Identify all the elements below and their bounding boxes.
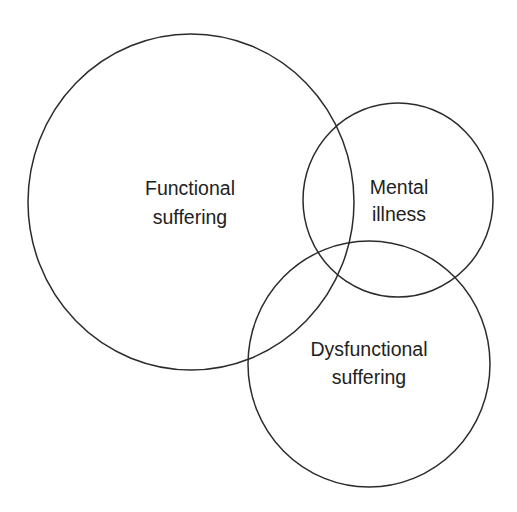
functional-suffering-label-line-2: suffering — [145, 203, 235, 232]
dysfunctional-suffering-label-line-2: suffering — [310, 363, 427, 391]
dysfunctional-suffering-label-line-1: Dysfunctional — [310, 335, 427, 363]
mental-illness-label-line-1: Mental — [370, 174, 429, 201]
venn-diagram: Functional suffering Mental illness Dysf… — [0, 0, 517, 512]
functional-suffering-label: Functional suffering — [145, 174, 235, 232]
mental-illness-label-line-2: illness — [370, 201, 429, 228]
functional-suffering-label-line-1: Functional — [145, 174, 235, 203]
mental-illness-label: Mental illness — [370, 174, 429, 228]
venn-circles — [0, 0, 517, 512]
dysfunctional-suffering-label: Dysfunctional suffering — [310, 335, 427, 391]
